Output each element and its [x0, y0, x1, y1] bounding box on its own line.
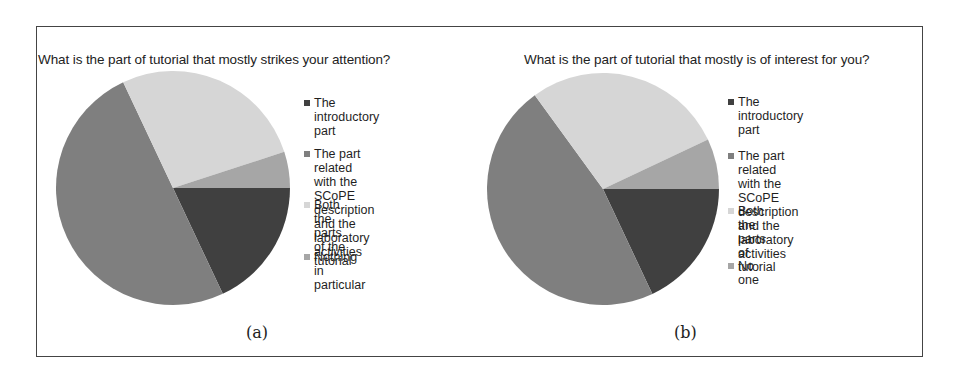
legend-label: The introductory part	[738, 95, 803, 137]
legend-swatch-icon	[304, 202, 310, 208]
legend-swatch-icon	[728, 263, 734, 269]
legend-swatch-icon	[728, 153, 734, 159]
legend-label: No one	[738, 259, 759, 287]
pie-chart-b	[487, 73, 719, 305]
legend-swatch-icon	[304, 151, 310, 157]
legend-label: The introductory part	[314, 96, 379, 138]
pie-charts	[0, 0, 960, 379]
legend-swatch-icon	[728, 208, 734, 214]
legend-swatch-icon	[728, 99, 734, 105]
pie-chart-a	[56, 71, 290, 305]
chart-b-caption: (b)	[674, 323, 697, 342]
chart-a-caption: (a)	[246, 323, 268, 342]
legend-swatch-icon	[304, 254, 310, 260]
legend-label: Nothing in particular	[314, 250, 365, 292]
legend-swatch-icon	[304, 100, 310, 106]
